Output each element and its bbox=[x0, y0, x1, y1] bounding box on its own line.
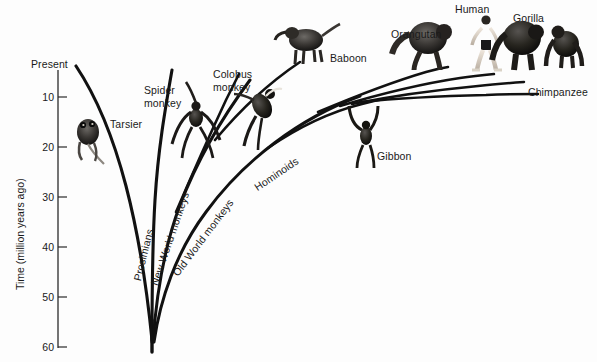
taxon-label-baboon: Baboon bbox=[330, 52, 367, 64]
taxon-label-spider-monkey-line1: Spider bbox=[144, 84, 181, 97]
taxon-label-orangutan: Orangutan bbox=[391, 28, 442, 40]
taxon-label-gorilla: Gorilla bbox=[513, 12, 544, 24]
colobus-monkey-image bbox=[234, 89, 282, 150]
taxon-label-colobus-monkey-line1: Colobus bbox=[213, 68, 252, 81]
taxon-label-colobus-monkey: Colobus monkey bbox=[213, 68, 252, 93]
taxon-label-spider-monkey-line2: monkey bbox=[144, 97, 181, 110]
tarsier-image bbox=[77, 119, 104, 164]
y-tick-label-60: 60 bbox=[28, 341, 54, 353]
y-tick-label-50: 50 bbox=[28, 291, 54, 303]
y-tick-label-40: 40 bbox=[28, 241, 54, 253]
tree-diagram-svg bbox=[0, 0, 597, 362]
taxon-label-spider-monkey: Spider monkey bbox=[144, 84, 181, 109]
present-label: Present bbox=[31, 58, 68, 70]
taxon-label-colobus-monkey-line2: monkey bbox=[213, 81, 252, 94]
y-tick-label-30: 30 bbox=[28, 191, 54, 203]
chimpanzee-image bbox=[546, 26, 582, 69]
primate-evolutionary-tree-figure: Time (million years ago) Present 10 20 3… bbox=[0, 0, 597, 362]
branch-prosimians bbox=[76, 66, 152, 340]
taxon-label-chimpanzee: Chimpanzee bbox=[528, 86, 588, 98]
y-axis bbox=[58, 70, 67, 348]
y-tick-label-10: 10 bbox=[28, 91, 54, 103]
taxon-label-gibbon: Gibbon bbox=[377, 150, 411, 162]
y-tick-label-20: 20 bbox=[28, 141, 54, 153]
taxon-label-tarsier: Tarsier bbox=[110, 118, 142, 130]
gorilla-image bbox=[492, 21, 544, 70]
branch-orangutan bbox=[318, 67, 448, 112]
taxon-label-human: Human bbox=[455, 3, 489, 15]
gibbon-image bbox=[349, 106, 378, 168]
branch-hominoids bbox=[154, 96, 360, 342]
y-axis-title: Time (million years ago) bbox=[14, 178, 26, 290]
